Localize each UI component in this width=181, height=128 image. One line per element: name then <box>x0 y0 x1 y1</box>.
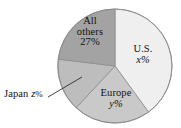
pie-label-europe-value: y% <box>92 99 140 110</box>
pie-label-japan-percent: % <box>35 89 43 99</box>
pie-label-japan: Japan z% <box>4 89 66 100</box>
pie-label-japan-text: Japan <box>4 88 28 99</box>
pie-label-europe: Europe y% <box>92 88 140 109</box>
pie-label-all-others: All others 27% <box>66 16 114 48</box>
pie-label-all-others-value: 27% <box>66 37 114 48</box>
pie-label-us-value: x% <box>126 55 160 66</box>
pie-label-us: U.S. x% <box>126 44 160 65</box>
pie-chart-figure: All others 27% U.S. x% Europe y% Japan z… <box>0 0 181 128</box>
